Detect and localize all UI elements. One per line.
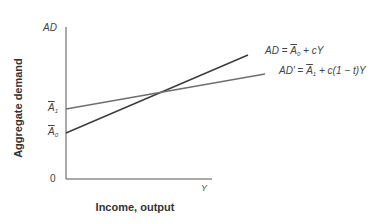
a1-subscript: 1	[55, 108, 58, 114]
ad-line	[66, 55, 248, 133]
a0-tick-label: A0	[48, 126, 58, 138]
x-axis-end-label: Y	[201, 183, 207, 193]
ad-eq-equals: =	[279, 45, 290, 56]
y-axis-title: Aggregate demand	[12, 53, 24, 163]
chart-canvas	[0, 0, 390, 224]
adp-eq-rest: + c(1 − t)Y	[316, 65, 365, 76]
x-axis-title: Income, output	[70, 201, 200, 213]
ad-prime-equation-label: AD′ = A1 + c(1 − t)Y	[279, 65, 366, 77]
ad-eq-rest: + cY	[300, 45, 323, 56]
ad-eq-lhs: AD	[265, 45, 279, 56]
a0-subscript: 0	[55, 132, 58, 138]
a1-letter: A	[48, 102, 55, 113]
adp-eq-lhs: AD′	[279, 65, 295, 76]
ad-prime-line	[66, 74, 265, 109]
ad-equation-label: AD = A0 + cY	[265, 45, 323, 57]
adp-eq-a: A	[306, 65, 313, 76]
a1-tick-label: A1	[48, 102, 58, 114]
adp-eq-equals: =	[295, 65, 306, 76]
origin-label: 0	[50, 173, 56, 184]
ad-eq-a: A	[290, 45, 297, 56]
ad-axis-label: AD	[43, 22, 57, 33]
a0-letter: A	[48, 126, 55, 137]
